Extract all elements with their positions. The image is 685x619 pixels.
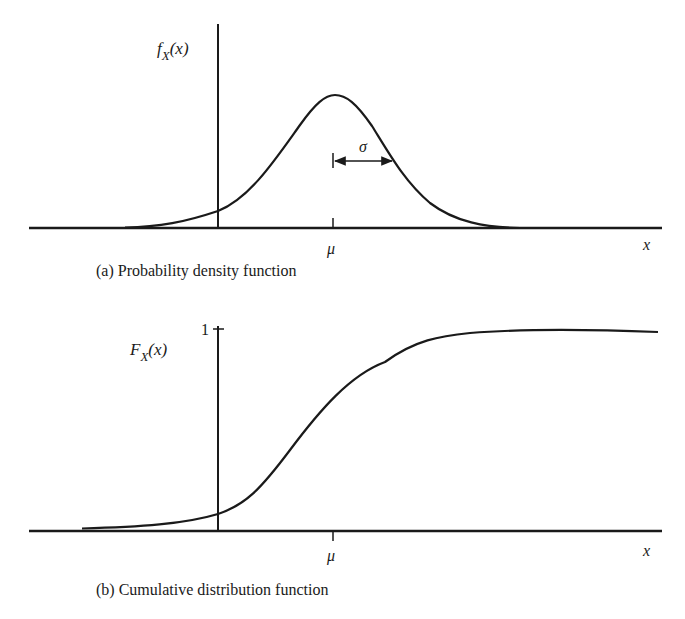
sigma-label: σ [359,138,368,155]
pdf-chart: σ fX(x) μ x (a) Probability density func… [29,24,662,280]
pdf-y-label: fX(x) [157,39,189,63]
cdf-curve [82,330,658,529]
pdf-mu-label: μ [326,240,335,258]
cdf-chart: 1 FX(x) μ x (b) Cumulative distribution … [29,321,662,599]
pdf-curve [125,95,520,228]
cdf-y-label-main: F [129,340,141,359]
pdf-y-label-arg: (x) [170,39,189,58]
pdf-caption: (a) Probability density function [96,262,296,280]
pdf-x-label: x [642,236,650,253]
figure: σ fX(x) μ x (a) Probability density func… [0,0,685,619]
cdf-y-label: FX(x) [129,340,168,364]
cdf-mu-label: μ [326,547,335,565]
cdf-y-label-arg: (x) [148,340,167,359]
cdf-one-label: 1 [201,321,209,338]
cdf-caption: (b) Cumulative distribution function [96,581,328,599]
cdf-x-label: x [642,542,650,559]
